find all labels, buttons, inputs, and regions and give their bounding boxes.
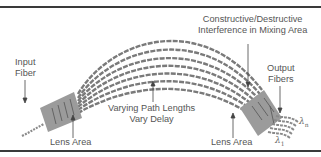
- left-lens-area-label: Lens Area: [50, 137, 91, 148]
- lambda-n-label: λn: [299, 116, 309, 128]
- input-fiber: [22, 124, 44, 136]
- input-fiber-label: Input Fiber: [15, 57, 36, 79]
- left-lens-area: [40, 92, 82, 132]
- interference-label: Constructive/Destructive Interference in…: [198, 14, 307, 36]
- lambda-1-label: λ1: [275, 135, 285, 147]
- right-lens-area-label: Lens Area: [211, 137, 252, 148]
- output-fibers-label: Output Fibers: [267, 63, 295, 85]
- varying-path-label: Varying Path Lengths Vary Delay: [108, 103, 195, 125]
